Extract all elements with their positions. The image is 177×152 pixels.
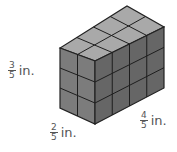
width-fraction: 2 5: [50, 123, 58, 142]
height-label: 3 5 in.: [8, 61, 35, 80]
height-fraction: 3 5: [8, 61, 16, 80]
length-fraction: 4 5: [140, 111, 148, 130]
width-label: 2 5 in.: [50, 123, 77, 142]
length-label: 4 5 in.: [140, 111, 167, 130]
